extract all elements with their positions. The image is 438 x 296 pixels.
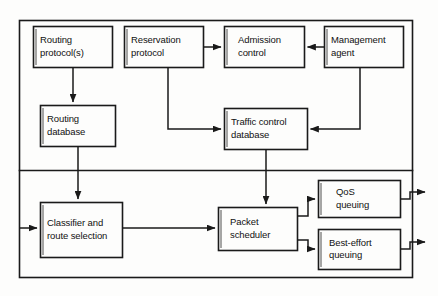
edge-management-agent-to-traffic-control-database: [311, 68, 361, 130]
box-packet-scheduler: [219, 208, 298, 251]
edge-packet-scheduler-to-best-effort-queuing: [298, 240, 316, 249]
box-traffic-control-database: [225, 109, 308, 150]
box-qos-queuing: [319, 181, 401, 218]
edge-reservation-protocol-to-traffic-control-database: [168, 68, 221, 130]
box-reservation-protocol: [125, 27, 204, 68]
box-admission-control: [225, 27, 305, 68]
edge-packet-scheduler-to-qos-queuing: [298, 199, 316, 216]
diagram-canvas: Routing protocol(s) Reservation protocol…: [0, 0, 438, 296]
diagram-vector-layer: [0, 0, 438, 296]
box-management-agent: [325, 27, 404, 68]
box-routing-protocols: [34, 27, 113, 68]
box-classifier-and-route-selection: [41, 203, 123, 258]
box-best-effort-queuing: [319, 230, 401, 270]
box-routing-database: [41, 106, 116, 147]
